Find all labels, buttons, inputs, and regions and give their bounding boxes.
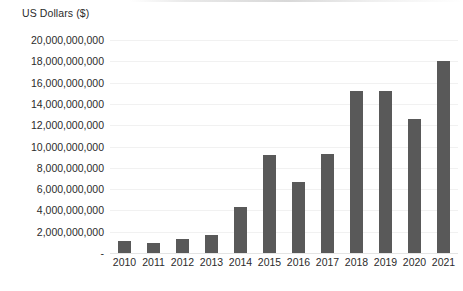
y-axis-tick-label: 16,000,000,000	[8, 77, 104, 89]
y-axis-tick-label: 6,000,000,000	[8, 183, 104, 195]
bar	[234, 207, 247, 253]
y-axis-tick-label: 2,000,000,000	[8, 226, 104, 238]
y-axis-tick-label: 18,000,000,000	[8, 55, 104, 67]
bar-chart: US Dollars ($) -2,000,000,0004,000,000,0…	[0, 0, 463, 291]
y-axis-tick-label: 20,000,000,000	[8, 34, 104, 46]
y-axis-tick-label: 8,000,000,000	[8, 162, 104, 174]
bar-series	[110, 40, 458, 253]
axis-baseline	[110, 253, 458, 254]
bar	[292, 182, 305, 253]
y-axis-tick-label: 12,000,000,000	[8, 119, 104, 131]
y-axis-tick-label: 14,000,000,000	[8, 98, 104, 110]
bar	[437, 61, 450, 253]
bar	[176, 239, 189, 253]
y-axis-tick-label: 4,000,000,000	[8, 204, 104, 216]
bar	[321, 154, 334, 253]
bar	[205, 235, 218, 253]
x-axis-tick-label: 2021	[427, 256, 461, 268]
x-axis-tick-label-group: 2010201120122013201420152016201720182019…	[110, 256, 458, 276]
y-axis-title: US Dollars ($)	[22, 7, 89, 19]
bar	[118, 241, 131, 253]
y-axis-tick-label: 10,000,000,000	[8, 141, 104, 153]
bar	[379, 91, 392, 253]
bar	[408, 119, 421, 253]
top-edge-artifact	[0, 0, 463, 2]
y-axis-tick-label-group: -2,000,000,0004,000,000,0006,000,000,000…	[0, 40, 104, 253]
bar	[350, 91, 363, 253]
bar	[263, 155, 276, 253]
bar	[147, 243, 160, 253]
y-axis-tick-label: -	[8, 247, 104, 259]
